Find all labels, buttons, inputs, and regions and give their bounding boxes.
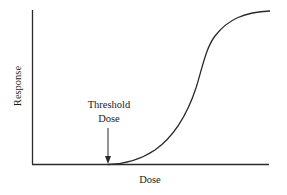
threshold-label-line1: Threshold [88,99,131,110]
dose-response-curve [108,11,270,165]
x-axis-label: Dose [139,174,161,185]
dose-response-chart: Threshold Dose Dose Response [0,0,287,195]
threshold-label-line2: Dose [98,113,120,124]
y-axis-label: Response [12,66,23,107]
threshold-arrow-head-icon [105,156,111,164]
